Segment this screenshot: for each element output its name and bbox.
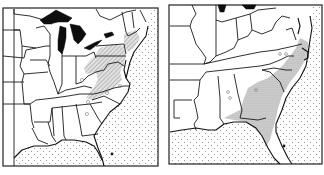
outlier-marker: [86, 100, 89, 103]
outlier-marker: [85, 112, 88, 115]
lake-huron: [70, 24, 86, 44]
chesapeake-bay: [298, 18, 300, 34]
lake-ontario: [104, 32, 114, 38]
lake-superior: [40, 10, 72, 24]
outlier-marker: [279, 53, 282, 56]
left-map-panel: [0, 0, 162, 175]
right-map: [162, 0, 324, 175]
point-marker: [111, 153, 114, 156]
outlier-marker: [285, 53, 288, 56]
point-marker: [283, 145, 286, 148]
great-lakes: [218, 5, 256, 12]
lake-michigan: [58, 26, 66, 54]
lake-erie: [242, 5, 256, 9]
lake-erie: [84, 40, 102, 50]
lake-michigan: [218, 5, 226, 12]
outlier-marker: [227, 91, 230, 94]
right-map-panel: [162, 0, 324, 175]
left-map: [0, 0, 162, 175]
outlier-marker: [229, 97, 232, 100]
range-shading: [84, 44, 126, 100]
outlier-marker: [80, 78, 83, 81]
